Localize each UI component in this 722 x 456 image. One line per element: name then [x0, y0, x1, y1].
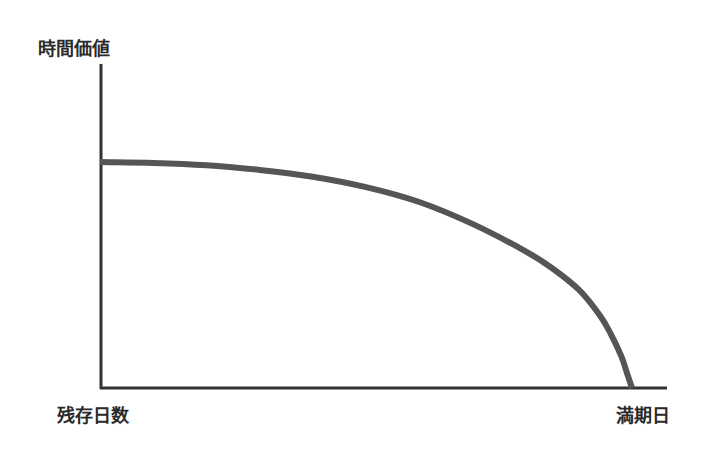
- chart-canvas: [0, 0, 722, 456]
- x-axis-start-label: 残存日数: [57, 401, 129, 427]
- y-axis-label: 時間価値: [38, 34, 110, 60]
- time-value-curve: [100, 162, 632, 388]
- x-axis-end-label: 満期日: [616, 401, 670, 427]
- time-value-decay-chart: 時間価値 残存日数 満期日: [0, 0, 722, 456]
